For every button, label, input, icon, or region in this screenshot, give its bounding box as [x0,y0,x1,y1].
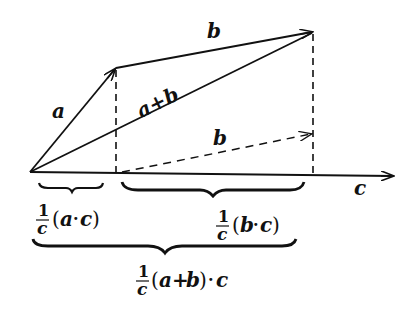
dot-op: · [253,215,259,234]
paren-open: ( [232,213,240,237]
paren-open: ( [151,268,159,292]
var-c: c [216,268,228,292]
denominator: c [137,279,148,299]
label-b-dashed: b [213,126,227,150]
paren-close: ) [272,213,280,237]
label-proj-b: 1 c ( b · c ) [216,207,280,244]
dot-op: · [73,209,79,228]
paren-close: ) [199,268,207,292]
label-b-top: b [207,19,221,43]
vector-projection-diagram: a b a+b b c 1 c ( a · c ) 1 c ( b · c ) … [0,0,410,320]
var-c: c [260,213,272,237]
denominator: c [37,218,48,238]
denominator: c [217,224,228,244]
paren-open: ( [52,207,60,231]
c-axis-arrow [30,172,393,176]
brace-proj-a [39,183,103,192]
brace-proj-sum [33,239,296,253]
label-a: a [52,99,65,123]
label-proj-a: 1 c ( a · c ) [36,201,100,238]
brace-proj-b [122,182,304,196]
label-c: c [354,176,366,200]
var-c: c [80,207,92,231]
paren-close: ) [92,207,100,231]
label-proj-sum: 1 c ( a + b ) · c [136,262,228,299]
var-a: a [159,268,172,292]
vector-a-arrow [30,69,115,172]
var-a: a [60,207,73,231]
var-b: b [240,213,254,237]
var-b: b [186,268,200,292]
dot-op: · [208,270,214,289]
label-a-plus-b: a+b [133,82,183,123]
